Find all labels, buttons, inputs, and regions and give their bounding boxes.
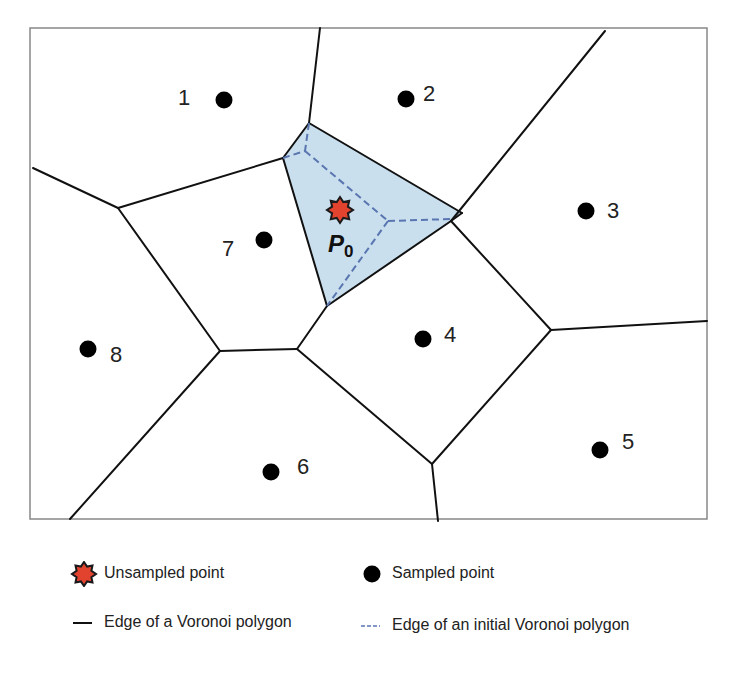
sampled-point-label: 3: [607, 198, 619, 223]
dot-icon: [358, 561, 392, 585]
legend: Unsampled point Sampled point Edge of a …: [0, 540, 733, 673]
legend-unsampled-point: Unsampled point: [70, 561, 224, 585]
sampled-point-label: 5: [622, 429, 634, 454]
sampled-point-2: [398, 91, 415, 108]
sampled-point-6: [263, 464, 280, 481]
legend-label: Unsampled point: [104, 564, 224, 582]
sampled-point-1: [216, 92, 233, 109]
legend-sampled-point: Sampled point: [358, 561, 494, 585]
star-icon: [327, 197, 353, 223]
legend-label: Edge of a Voronoi polygon: [104, 613, 292, 631]
legend-label: Edge of an initial Voronoi polygon: [392, 616, 630, 634]
sampled-point-label: 7: [222, 236, 234, 261]
legend-voronoi-edge: Edge of a Voronoi polygon: [70, 610, 292, 634]
sampled-point-8: [80, 341, 97, 358]
sampled-point-label: 2: [423, 81, 435, 106]
sampled-point-5: [592, 442, 609, 459]
sampled-point-label: 4: [444, 322, 456, 347]
dashed-line-icon: [358, 613, 392, 637]
legend-label: Sampled point: [392, 564, 494, 582]
sampled-point-label: 8: [110, 342, 122, 367]
voronoi-diagram: 12345678 P0: [0, 0, 733, 540]
legend-initial-voronoi-edge: Edge of an initial Voronoi polygon: [358, 613, 630, 637]
star-icon: [70, 561, 104, 585]
sampled-point-label: 1: [178, 85, 190, 110]
sampled-point-3: [578, 203, 595, 220]
solid-line-icon: [70, 610, 104, 634]
sampled-point-4: [415, 331, 432, 348]
sampled-point-label: 6: [297, 454, 309, 479]
sampled-point-7: [256, 232, 273, 249]
